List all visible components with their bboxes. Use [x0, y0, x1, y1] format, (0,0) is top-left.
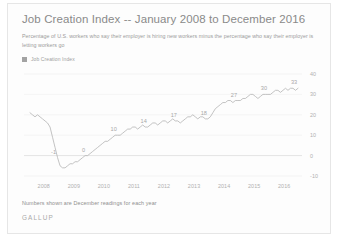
- x-axis-tick: 2010: [98, 183, 110, 189]
- line-chart-svg: -10010203040 200820092010201120122013201…: [8, 64, 331, 189]
- chart-subtitle: Percentage of U.S. workers who say their…: [22, 32, 314, 49]
- y-axis-tick: 30: [310, 91, 316, 97]
- x-axis-tick: 2014: [218, 183, 230, 189]
- y-axis-tick: 40: [310, 71, 316, 77]
- x-axis-tick: 2008: [38, 183, 50, 189]
- x-axis-tick: 2011: [128, 183, 140, 189]
- legend-swatch-icon: [22, 57, 27, 62]
- y-axis-tick: 0: [310, 153, 313, 159]
- y-axis-tick: -10: [310, 173, 318, 179]
- data-point-labels: -1010141718273033: [51, 79, 297, 154]
- data-point-label: 10: [111, 126, 117, 132]
- data-point-label: 0: [82, 147, 85, 153]
- chart-legend: Job Creation Index: [22, 56, 75, 62]
- data-point-label: 33: [291, 79, 297, 85]
- y-axis-tick: 20: [310, 112, 316, 118]
- data-point-label: 27: [231, 92, 237, 98]
- brand-wordmark: GALLUP: [22, 214, 54, 221]
- chart-plot-area: -10010203040 200820092010201120122013201…: [8, 64, 331, 189]
- data-point-label: 30: [261, 85, 267, 91]
- x-axis-tick: 2013: [188, 183, 200, 189]
- x-axis-labels: 200820092010201120122013201420152016: [38, 183, 291, 189]
- chart-card: Job Creation Index -- January 2008 to De…: [7, 3, 331, 234]
- x-axis-tick: 2015: [248, 183, 260, 189]
- x-axis-tick: 2012: [158, 183, 170, 189]
- data-point-label: -1: [51, 149, 56, 155]
- y-axis-tick: 10: [310, 132, 316, 138]
- data-point-label: 17: [171, 112, 177, 118]
- x-axis-tick: 2016: [278, 183, 290, 189]
- page-title: Job Creation Index -- January 2008 to De…: [22, 13, 305, 25]
- data-point-label: 18: [201, 110, 207, 116]
- legend-label: Job Creation Index: [31, 56, 75, 62]
- x-axis-tick: 2009: [68, 183, 80, 189]
- y-axis-labels: -10010203040: [310, 71, 318, 179]
- data-point-label: 14: [141, 118, 147, 124]
- chart-footnote: Numbers shown are December readings for …: [22, 200, 157, 206]
